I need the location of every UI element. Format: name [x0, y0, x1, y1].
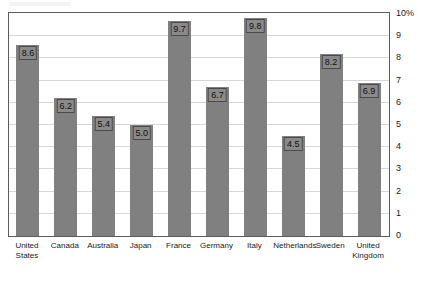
y-axis-tick-label: 2 [396, 187, 401, 196]
bar-slot: 9.7 [168, 13, 191, 236]
bar[interactable] [320, 54, 343, 236]
y-axis-tick-label: 10% [396, 9, 414, 18]
bar-slot: 5.0 [130, 13, 153, 236]
x-axis-tick-label: France [160, 241, 198, 251]
bar-value-label: 8.6 [19, 46, 38, 60]
x-axis-tick-label: Australia [84, 241, 122, 251]
bar[interactable] [130, 125, 153, 236]
x-axis-tick-label: Canada [46, 241, 84, 251]
bar-slot: 6.7 [206, 13, 229, 236]
x-axis-tick-line: France [160, 241, 198, 251]
x-axis-tick-line: Netherlands [273, 241, 311, 251]
y-axis: 10%9876543210 [392, 0, 425, 284]
x-axis: UnitedStatesCanadaAustraliaJapanFranceGe… [8, 241, 390, 281]
bar-chart-figure: 8.66.25.45.09.76.79.84.58.26.9 10%987654… [0, 0, 425, 284]
x-axis-tick-line: Sweden [311, 241, 349, 251]
bar[interactable] [16, 45, 39, 236]
y-axis-tick-label: 1 [396, 209, 401, 218]
bar-value-label: 6.2 [57, 99, 76, 113]
x-axis-tick-line: Japan [122, 241, 160, 251]
bar-value-label: 6.9 [360, 84, 379, 98]
bar-slot: 6.9 [358, 13, 381, 236]
x-axis-tick-label: Japan [122, 241, 160, 251]
bar-value-label: 5.0 [132, 126, 151, 140]
y-axis-tick-label: 4 [396, 142, 401, 151]
x-axis-tick-label: UnitedStates [8, 241, 46, 261]
bar[interactable] [168, 21, 191, 236]
bar-value-label: 8.2 [322, 55, 341, 69]
y-axis-tick-label: 7 [396, 76, 401, 85]
scan-artifact [10, 2, 70, 6]
y-axis-tick-label: 6 [396, 98, 401, 107]
bar[interactable] [92, 116, 115, 236]
y-axis-tick-label: 5 [396, 120, 401, 129]
bar[interactable] [54, 98, 77, 236]
bar[interactable] [244, 18, 267, 236]
x-axis-tick-label: Italy [235, 241, 273, 251]
x-axis-tick-label: Netherlands [273, 241, 311, 251]
x-axis-tick-line: Italy [235, 241, 273, 251]
bar-slot: 8.6 [16, 13, 39, 236]
bar-value-label: 5.4 [95, 117, 114, 131]
y-axis-tick-label: 9 [396, 31, 401, 40]
x-axis-tick-label: Sweden [311, 241, 349, 251]
x-axis-tick-line: Germany [198, 241, 236, 251]
x-axis-tick-line: States [8, 251, 46, 261]
x-axis-tick-line: Australia [84, 241, 122, 251]
bar-value-label: 4.5 [284, 137, 303, 151]
bar-value-label: 9.8 [246, 19, 265, 33]
bar-slot: 4.5 [282, 13, 305, 236]
x-axis-tick-label: Germany [198, 241, 236, 251]
plot-area: 8.66.25.45.09.76.79.84.58.26.9 [8, 12, 390, 237]
bar-slot: 5.4 [92, 13, 115, 236]
x-axis-tick-line: Canada [46, 241, 84, 251]
x-axis-tick-line: Kingdom [349, 251, 387, 261]
bars-layer: 8.66.25.45.09.76.79.84.58.26.9 [9, 13, 389, 236]
bar[interactable] [206, 87, 229, 236]
bar-value-label: 6.7 [208, 88, 227, 102]
x-axis-tick-line: United [8, 241, 46, 251]
bar[interactable] [358, 83, 381, 236]
bar-value-label: 9.7 [170, 22, 189, 36]
y-axis-tick-label: 3 [396, 164, 401, 173]
bar-slot: 8.2 [320, 13, 343, 236]
y-axis-tick-label: 0 [396, 231, 401, 240]
x-axis-tick-line: United [349, 241, 387, 251]
bar-slot: 9.8 [244, 13, 267, 236]
bar-slot: 6.2 [54, 13, 77, 236]
y-axis-tick-label: 8 [396, 53, 401, 62]
x-axis-tick-label: UnitedKingdom [349, 241, 387, 261]
